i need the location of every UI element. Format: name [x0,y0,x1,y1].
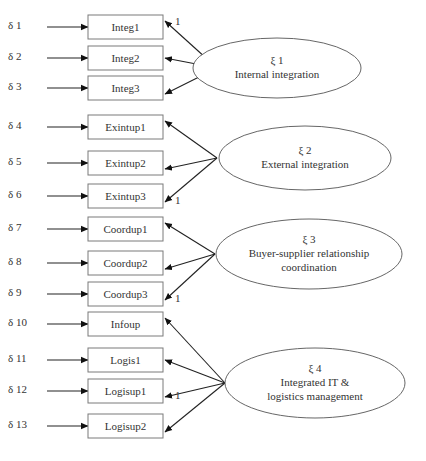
error-term-label: δ 7 [8,221,22,233]
error-term-label: δ 5 [8,155,22,167]
loading-arrow [165,318,225,383]
factor-label: Integrated IT & [281,376,350,388]
fixed-loading-label: 1 [175,292,181,304]
error-term-label: δ 9 [8,286,22,298]
factor-label: coordination [281,261,337,273]
factor-label: Buyer-supplier relationship [249,247,370,259]
error-term-label: δ 13 [8,418,27,430]
indicator-label: Exintup3 [105,190,146,202]
fixed-loading-label: 1 [175,389,181,401]
factor-symbol: ξ 4 [308,362,322,375]
error-term-label: δ 2 [8,50,21,62]
factor-group-xi3: δ 7Coordup1δ 8Coordup2δ 9Coordup31ξ 3Buy… [8,217,402,306]
fixed-loading-label: 1 [175,15,181,27]
indicator-label: Integ2 [111,52,139,64]
error-term-label: δ 4 [8,119,22,131]
error-term-label: δ 6 [8,188,22,200]
indicator-label: Exintup1 [105,121,145,133]
diagram-canvas: δ 1Integ11δ 2Integ2δ 3Integ3ξ 1Internal … [0,0,426,461]
indicator-label: Integ3 [111,82,140,94]
indicator-label: Integ1 [111,21,139,33]
indicator-label: Logisup2 [105,420,147,432]
indicator-label: Coordup2 [104,257,148,269]
factor-symbol: ξ 1 [270,54,283,67]
fixed-loading-label: 1 [175,194,181,206]
loading-arrow [165,158,217,169]
factor-label: Internal integration [235,68,320,80]
error-term-label: δ 1 [8,19,21,31]
loading-arrow [165,121,217,158]
loading-arrow [165,254,215,300]
indicator-label: Coordup3 [104,288,149,300]
factor-group-xi2: δ 4Exintup1δ 5Exintup2δ 6Exintup31ξ 2Ext… [8,115,391,208]
indicator-label: Logis1 [110,354,141,366]
error-term-label: δ 12 [8,383,27,395]
sem-measurement-model-diagram: δ 1Integ11δ 2Integ2δ 3Integ3ξ 1Internal … [0,0,426,461]
error-term-label: δ 8 [8,255,22,267]
factor-symbol: ξ 3 [302,233,316,246]
factor-label: External integration [261,158,349,170]
error-term-label: δ 3 [8,80,22,92]
factor-group-xi1: δ 1Integ11δ 2Integ2δ 3Integ3ξ 1Internal … [8,15,361,100]
indicator-label: Coordup1 [104,223,148,235]
indicator-label: Infoup [111,318,141,330]
loading-arrow [165,223,215,254]
loading-arrow [165,158,217,202]
factor-label: logistics management [267,390,363,402]
error-term-label: δ 10 [8,316,27,328]
loading-arrow [165,360,225,383]
indicator-label: Logisup1 [105,385,147,397]
factor-symbol: ξ 2 [298,144,311,157]
error-term-label: δ 11 [8,352,27,364]
indicator-label: Exintup2 [105,157,145,169]
factor-group-xi4: δ 10Infoupδ 11Logis1δ 12Logisup11δ 13Log… [8,312,405,438]
